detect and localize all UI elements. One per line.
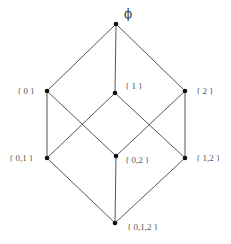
- node-s1: [113, 91, 118, 96]
- edge-s02-s012: [115, 156, 116, 223]
- edge-empty-s0: [47, 24, 116, 91]
- node-s02: [114, 154, 119, 159]
- node-label-s1: { 1 }: [125, 81, 143, 91]
- node-label-empty: ϕ: [124, 7, 132, 21]
- node-s0: [45, 89, 50, 94]
- edge-s01-s012: [47, 158, 115, 223]
- node-label-s0: { 0 }: [17, 86, 35, 96]
- node-s012: [113, 221, 118, 226]
- edge-s0-s02: [47, 91, 116, 156]
- edges-group: [47, 24, 185, 223]
- node-s12: [183, 156, 188, 161]
- node-label-s12: { 1,2 }: [196, 153, 220, 163]
- edge-s2-s02: [116, 91, 185, 156]
- hasse-diagram: ϕ{ 0 }{ 1 }{ 2 }{ 0,1 }{ 0,2 }{ 1,2 }{ 0…: [0, 0, 231, 244]
- labels-group: ϕ{ 0 }{ 1 }{ 2 }{ 0,1 }{ 0,2 }{ 1,2 }{ 0…: [9, 7, 220, 232]
- node-s01: [45, 156, 50, 161]
- edge-s12-s012: [115, 158, 185, 223]
- node-label-s012: { 0,1,2 }: [127, 222, 158, 232]
- edge-s1-s12: [115, 93, 185, 158]
- edge-s1-s01: [47, 93, 115, 158]
- node-label-s02: { 0,2 }: [125, 155, 149, 165]
- node-s2: [183, 89, 188, 94]
- node-label-s2: { 2 }: [196, 86, 214, 96]
- node-label-s01: { 0,1 }: [9, 153, 33, 163]
- node-empty: [114, 22, 119, 27]
- edge-empty-s1: [115, 24, 116, 93]
